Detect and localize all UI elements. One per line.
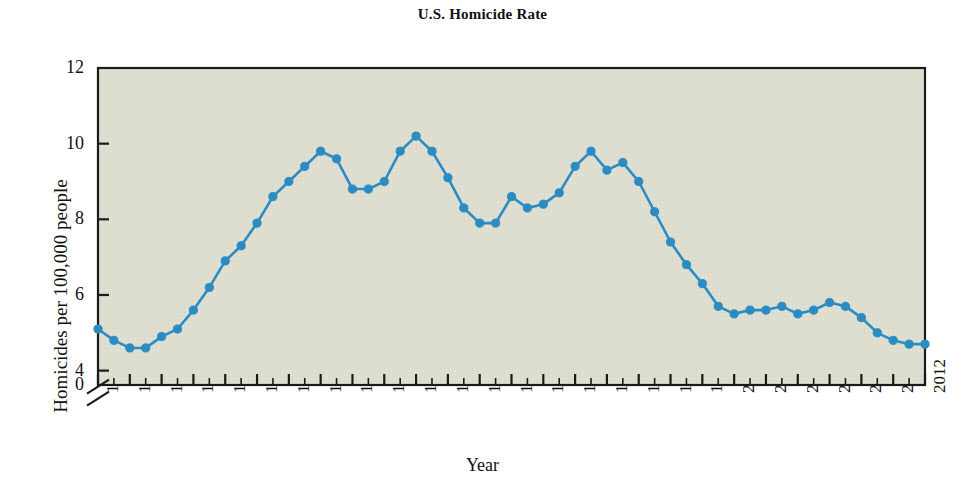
chart-figure: U.S. Homicide Rate Homicides per 100,000…: [0, 0, 965, 497]
plot-background: [98, 68, 925, 385]
plot-area: [0, 0, 965, 497]
